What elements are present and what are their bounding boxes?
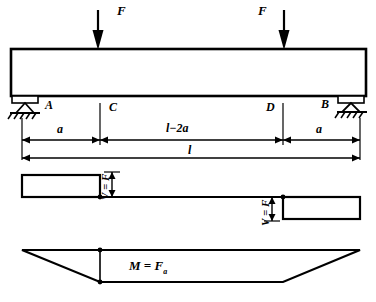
shear-label-left: V = F: [100, 174, 111, 200]
moment-label-subscript: a: [163, 267, 167, 276]
moment-label: M = Fa: [129, 259, 167, 276]
bending-moment-diagram: [22, 248, 360, 285]
shear-label-right: V = F: [260, 200, 271, 226]
shear-force-diagram: [22, 172, 360, 221]
load-label-left: F: [117, 4, 126, 17]
support-right-roller: [335, 96, 367, 118]
support-left-pin: [8, 96, 40, 119]
support-label-b: B: [321, 98, 329, 110]
dimension-label-a-left: a: [57, 123, 63, 135]
point-label-d: D: [266, 101, 275, 113]
dimension-label-a-right: a: [316, 123, 322, 135]
load-label-right: F: [258, 4, 267, 17]
dimension-label-middle: l−2a: [166, 122, 189, 134]
moment-label-main: M = F: [129, 258, 163, 273]
dimension-line-segments: [22, 137, 360, 144]
dimension-label-total-span: l: [188, 144, 191, 156]
point-label-c: C: [109, 101, 117, 113]
load-arrow-left: [93, 10, 104, 50]
load-arrow-right: [279, 10, 290, 50]
figure-canvas: F F A B C D a l−2a a l V = F V = F M = F…: [0, 0, 376, 302]
beam-body: [11, 49, 366, 96]
support-label-a: A: [45, 99, 53, 111]
